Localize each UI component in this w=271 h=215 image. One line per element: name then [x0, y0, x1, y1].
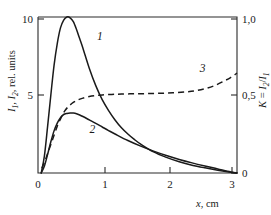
curve-3-ratio [42, 73, 237, 168]
x-tick-label-2: 2 [167, 178, 173, 190]
curve-label-1: 1 [97, 30, 103, 42]
curves [41, 17, 237, 173]
line-chart: 10 5 1,0 0,5 0 0 1 2 3 [0, 0, 270, 215]
y-right-tick-label-1: 1,0 [242, 13, 256, 25]
y-left-axis-title: I1, I2, rel. units [6, 50, 20, 113]
curve-label-2: 2 [89, 123, 95, 135]
y-right-title-den-sub: 1 [262, 72, 271, 76]
y-right-title-eq: = [257, 90, 268, 101]
y-right-ticks: 1,0 0,5 0 [231, 13, 256, 179]
x-tick-label-3: 3 [229, 178, 235, 190]
y-left-title-units: , rel. units [6, 50, 17, 92]
x-title-unit: , cm [201, 198, 219, 209]
curve-number-labels: 1 2 3 [89, 30, 205, 136]
y-right-axis-title: K = I2/I1 [257, 72, 270, 109]
x-tick-label-0: 0 [35, 178, 41, 190]
figure-container: 10 5 1,0 0,5 0 0 1 2 3 [0, 0, 270, 215]
curve-1 [41, 17, 237, 173]
y-left-ticks: 10 5 [22, 13, 44, 101]
x-ticks: 0 1 2 3 [35, 167, 235, 190]
y-left-tick-label-5: 5 [28, 89, 34, 101]
plot-frame [38, 17, 237, 173]
svg-text:x, cm: x, cm [195, 198, 219, 209]
y-right-tick-label-0: 0 [242, 167, 248, 179]
svg-text:I1, I2, rel. units: I1, I2, rel. units [6, 50, 20, 113]
svg-text:K = I2/I1: K = I2/I1 [257, 72, 270, 109]
x-axis-title: x, cm [195, 198, 219, 209]
y-left-tick-label-10: 10 [22, 13, 34, 25]
x-tick-label-1: 1 [102, 178, 108, 190]
curve-label-3: 3 [199, 62, 206, 74]
frame-border [38, 17, 237, 173]
y-right-tick-label-05: 0,5 [242, 89, 256, 101]
